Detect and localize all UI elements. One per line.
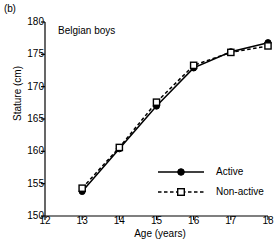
legend-label-active: Active — [216, 167, 243, 177]
legend — [158, 169, 204, 196]
figure-panel: (b) Belgian boys Stature (cm) Age (years… — [0, 0, 279, 246]
plot-area — [0, 0, 279, 246]
legend-label-non-active: Non-active — [216, 187, 264, 197]
